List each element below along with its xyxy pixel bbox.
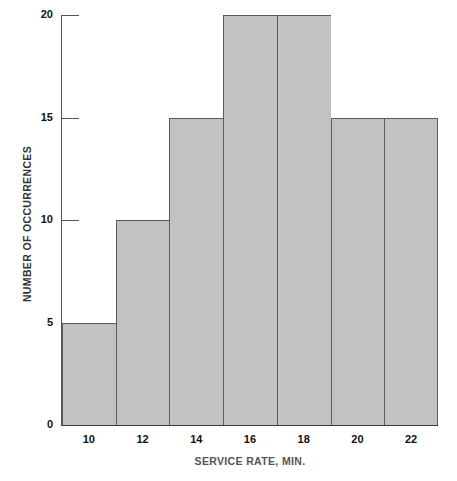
- y-tick-20: 20: [62, 15, 79, 16]
- plot-area: 20 15 10 5 0 10121416182022: [62, 15, 438, 425]
- histogram-bar: [62, 323, 116, 426]
- histogram-bar: [277, 15, 331, 425]
- x-tick-label: 22: [384, 433, 438, 445]
- y-tick-label-5: 5: [47, 316, 53, 328]
- x-tick-label: 18: [277, 433, 331, 445]
- y-tick-15: 15: [62, 118, 79, 119]
- histogram-bar: [331, 118, 385, 426]
- y-tick-label-0: 0: [47, 418, 53, 430]
- y-tick-label-20: 20: [41, 8, 53, 20]
- x-tick-label: 14: [169, 433, 223, 445]
- histogram-bar: [169, 118, 223, 426]
- x-tick-label: 20: [331, 433, 385, 445]
- y-tick-label-10: 10: [41, 213, 53, 225]
- x-axis-label: SERVICE RATE, MIN.: [62, 455, 438, 467]
- histogram-figure: NUMBER OF OCCURRENCES 20 15 10 5 0 10121…: [0, 0, 457, 481]
- x-tick-label: 12: [116, 433, 170, 445]
- histogram-bar: [116, 220, 170, 425]
- y-tick-label-15: 15: [41, 111, 53, 123]
- histogram-bar: [384, 118, 438, 426]
- histogram-bar: [223, 15, 277, 425]
- x-tick-label: 16: [223, 433, 277, 445]
- x-axis-spine: [61, 425, 438, 426]
- y-axis-label: NUMBER OF OCCURRENCES: [21, 114, 33, 334]
- y-tick-10: 10: [62, 220, 79, 221]
- x-tick-label: 10: [62, 433, 116, 445]
